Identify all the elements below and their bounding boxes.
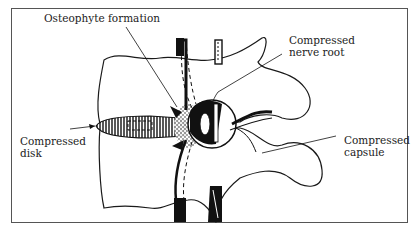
leader-osteophyte [126, 27, 177, 107]
leader-nerve-root [218, 54, 282, 92]
label-compressed-disk: Compressed disk [20, 135, 86, 159]
label-compressed-nerve-root: Compressed nerve root [289, 34, 355, 58]
leader-capsule [262, 136, 336, 153]
label-compressed-capsule: Compressed capsule [344, 134, 410, 158]
label-osteophyte-formation: Osteophyte formation [44, 12, 160, 24]
compressed-disk [96, 116, 186, 138]
